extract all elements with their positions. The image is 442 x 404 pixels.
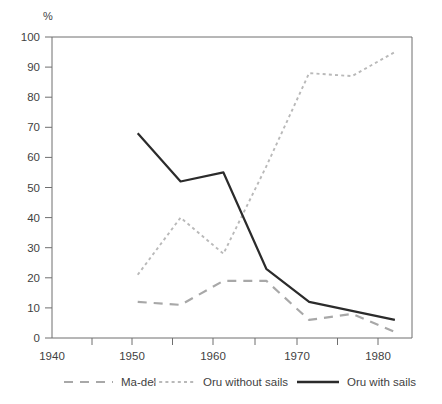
y-tick-label: 50 [27, 182, 40, 194]
y-tick-label: 40 [27, 212, 40, 224]
y-tick-label: 10 [27, 302, 40, 314]
series-line-oru-without-sails [138, 52, 395, 275]
x-tick-label: 1940 [39, 350, 65, 362]
x-tick-label: 1950 [119, 350, 145, 362]
x-tick-label: 1960 [200, 350, 226, 362]
y-tick-label: 60 [27, 151, 40, 163]
y-tick-label: 80 [27, 91, 40, 103]
x-axis-tick-labels: 1940 1950 1960 1970 1980 [39, 350, 391, 362]
plot-frame [52, 37, 412, 338]
x-axis-ticks [92, 338, 378, 345]
legend-item-oru-without-sails[interactable]: Oru without sails [153, 376, 288, 388]
series-line-ma-del [138, 281, 395, 332]
x-tick-label: 1970 [284, 350, 310, 362]
y-tick-label: 90 [27, 61, 40, 73]
chart-legend: Ma-del Oru without sails Oru with sails [64, 376, 416, 388]
x-tick-label: 1980 [365, 350, 391, 362]
legend-label: Oru without sails [203, 376, 288, 388]
legend-item-oru-with-sails[interactable]: Oru with sails [297, 376, 416, 388]
series-line-oru-with-sails [138, 133, 395, 320]
series-group [138, 52, 395, 332]
y-axis-ticks [45, 37, 52, 338]
y-tick-label: 20 [27, 272, 40, 284]
y-tick-label: 0 [34, 332, 40, 344]
line-chart: 100 90 80 70 60 50 40 30 20 10 0 1940 19 [0, 0, 442, 404]
chart-container: % 100 90 80 70 60 [0, 0, 442, 404]
y-tick-label: 100 [21, 31, 40, 43]
legend-label: Ma-del [121, 376, 156, 388]
y-tick-label: 70 [27, 121, 40, 133]
y-axis-tick-labels: 100 90 80 70 60 50 40 30 20 10 0 [21, 31, 40, 344]
y-tick-label: 30 [27, 242, 40, 254]
legend-label: Oru with sails [347, 376, 416, 388]
legend-item-ma-del[interactable]: Ma-del [64, 376, 156, 388]
